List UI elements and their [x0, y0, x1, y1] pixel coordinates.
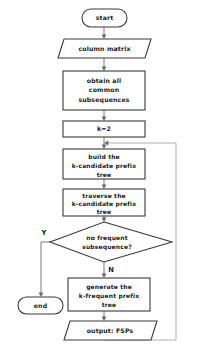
start-label: start [96, 14, 114, 21]
obtain-subsequences-line1: obtain all [87, 77, 121, 84]
traverse-tree-line3: tree [97, 208, 112, 215]
generate-tree-line3: tree [102, 301, 117, 308]
node-end[interactable]: end [18, 297, 63, 314]
traverse-tree-line2: k-candidate prefix [72, 200, 137, 208]
node-start[interactable]: start [82, 9, 127, 27]
arrow-build-to-traverse [102, 185, 107, 189]
node-build-tree[interactable]: build the k-candidate prefix tree [63, 149, 145, 179]
arrow-setk-to-build [102, 145, 107, 149]
end-label: end [34, 302, 47, 309]
node-generate-tree[interactable]: generate the k-frequent prefix tree [68, 278, 150, 311]
arrow-decision-no-to-generate [102, 274, 107, 278]
arrow-traverse-to-decision [102, 218, 107, 222]
flowchart-canvas: start column matrix obtain all common su… [0, 0, 203, 359]
node-traverse-tree[interactable]: traverse the k-candidate prefix tree [63, 189, 145, 216]
generate-tree-line2: k-frequent prefix [79, 292, 139, 300]
obtain-subsequences-line3: subsequences [78, 96, 129, 104]
build-tree-line3: tree [97, 171, 112, 178]
obtain-subsequences-line2: common [89, 86, 119, 93]
branch-label-yes: Y [41, 229, 47, 237]
traverse-tree-line1: traverse the [82, 192, 126, 199]
build-tree-line1: build the [88, 153, 120, 160]
decision-line1: no frequent [86, 234, 128, 242]
arrow-obtain-to-setk [102, 117, 107, 121]
arrow-generate-to-output [102, 317, 107, 321]
decision-line2: subsequence? [82, 243, 132, 251]
build-tree-line2: k-candidate prefix [72, 162, 137, 170]
arrow-decision-yes-to-end [39, 293, 44, 297]
node-obtain-subsequences[interactable]: obtain all common subsequences [63, 71, 145, 110]
connector-decision-yes-to-end [41, 242, 50, 294]
arrow-input-to-obtain [102, 67, 107, 71]
branch-label-no: N [108, 266, 114, 274]
generate-tree-line1: generate the [86, 283, 132, 291]
input-column-matrix-label: column matrix [78, 45, 130, 52]
node-output-fsps[interactable]: output: FSPs [64, 321, 157, 340]
node-input-column-matrix[interactable]: column matrix [58, 39, 151, 58]
node-set-k[interactable]: k=2 [63, 121, 145, 137]
set-k-label: k=2 [97, 125, 111, 132]
arrow-start-to-input [102, 35, 107, 39]
node-decision[interactable]: no frequent subsequence? [50, 222, 172, 262]
output-fsps-label: output: FSPs [87, 327, 134, 335]
